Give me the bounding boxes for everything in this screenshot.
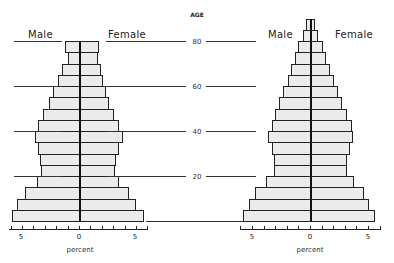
bar-male-15-19 xyxy=(266,176,311,188)
age-label-40: 40 xyxy=(187,128,207,136)
age-line-mid-right-60 xyxy=(206,86,256,87)
bar-female-60-64 xyxy=(79,75,103,87)
x-tick xyxy=(275,226,276,230)
tick-label-right-5-female: 5 xyxy=(362,233,374,241)
x-tick xyxy=(380,226,381,230)
bar-female-65-69 xyxy=(79,64,101,76)
x-tick xyxy=(147,226,148,230)
bar-male-50-54 xyxy=(279,97,311,109)
bar-male-10-14 xyxy=(25,187,80,199)
x-tick xyxy=(33,226,34,230)
bar-male-35-39 xyxy=(268,131,311,143)
x-tick xyxy=(113,226,114,230)
age-label-20: 20 xyxy=(187,173,207,181)
x-tick xyxy=(79,226,80,230)
bar-female-0-4 xyxy=(310,210,375,222)
x-tick xyxy=(333,226,334,230)
bar-male-5-9 xyxy=(17,199,80,211)
bar-male-35-39 xyxy=(35,131,80,143)
age-axis-title: AGE xyxy=(182,11,212,18)
age-line-mid-left-60 xyxy=(106,86,186,87)
age-line-mid-left-80 xyxy=(106,41,186,42)
x-tick xyxy=(22,226,23,230)
x-tick xyxy=(56,226,57,230)
x-tick xyxy=(287,226,288,230)
x-tick xyxy=(90,226,91,230)
age-line-left-20 xyxy=(14,176,62,177)
bar-female-10-14 xyxy=(79,187,129,199)
x-tick xyxy=(298,226,299,230)
bar-female-15-19 xyxy=(310,176,354,188)
tick-label-left-0: 0 xyxy=(73,233,85,241)
bar-male-40-44 xyxy=(272,120,311,132)
x-tick xyxy=(68,226,69,230)
x-tick xyxy=(252,226,253,230)
bar-female-55-59 xyxy=(310,86,338,98)
bar-female-35-39 xyxy=(310,131,353,143)
age-line-mid-left-20 xyxy=(106,176,186,177)
age-line-mid-left-40 xyxy=(106,131,186,132)
tick-label-left-5-female: 5 xyxy=(129,233,141,241)
x-tick xyxy=(368,226,369,230)
x-tick xyxy=(356,226,357,230)
x-tick xyxy=(102,226,103,230)
bar-female-30-34 xyxy=(310,142,350,154)
male-label-right: Male xyxy=(268,29,293,40)
age-line-left-80 xyxy=(14,41,62,42)
bar-female-30-34 xyxy=(79,142,119,154)
bar-male-30-34 xyxy=(38,142,80,154)
bar-female-0-4 xyxy=(79,210,144,222)
bar-male-0-4 xyxy=(243,210,311,222)
bar-female-60-64 xyxy=(310,75,334,87)
age-label-80: 80 xyxy=(187,38,207,46)
bar-female-5-9 xyxy=(310,199,369,211)
center-line xyxy=(310,19,312,223)
bar-male-65-69 xyxy=(62,64,80,76)
bar-female-65-69 xyxy=(310,64,330,76)
x-tick xyxy=(240,226,241,230)
bar-female-45-49 xyxy=(79,109,114,121)
bar-female-20-24 xyxy=(310,165,347,177)
bar-male-25-29 xyxy=(40,154,80,166)
bar-male-50-54 xyxy=(49,97,80,109)
x-tick xyxy=(45,226,46,230)
age-line-left-60 xyxy=(14,86,62,87)
male-label-left: Male xyxy=(28,29,53,40)
bar-female-5-9 xyxy=(79,199,136,211)
bar-male-45-49 xyxy=(43,109,80,121)
age-line-mid-right-40 xyxy=(206,131,256,132)
bar-female-75-79 xyxy=(79,41,99,53)
tick-label-right-0: 0 xyxy=(304,233,316,241)
bar-male-0-4 xyxy=(12,210,80,222)
bar-male-25-29 xyxy=(274,154,311,166)
x-axis-label-right: percent xyxy=(290,246,330,254)
age-line-mid-right-80 xyxy=(206,41,256,42)
tick-label-left-5-male: 5 xyxy=(15,233,27,241)
age-line-left-40 xyxy=(14,131,62,132)
x-tick xyxy=(322,226,323,230)
bar-male-15-19 xyxy=(37,176,80,188)
bar-male-70-74 xyxy=(295,52,311,64)
female-label-right: Female xyxy=(335,29,373,40)
bar-female-70-74 xyxy=(79,52,98,64)
x-tick xyxy=(125,226,126,230)
age-line-mid-right-20 xyxy=(206,176,256,177)
bar-female-40-44 xyxy=(310,120,352,132)
bar-female-35-39 xyxy=(79,131,123,143)
bar-male-5-9 xyxy=(249,199,311,211)
x-tick xyxy=(136,226,137,230)
bar-female-55-59 xyxy=(79,86,106,98)
x-axis-label-left: percent xyxy=(60,246,100,254)
bar-male-75-79 xyxy=(65,41,80,53)
bar-male-45-49 xyxy=(275,109,311,121)
bar-female-25-29 xyxy=(79,154,116,166)
bar-male-20-24 xyxy=(274,165,311,177)
bar-male-30-34 xyxy=(272,142,311,154)
x-tick xyxy=(11,226,12,230)
x-tick xyxy=(310,226,311,230)
bar-male-55-59 xyxy=(53,86,80,98)
x-tick xyxy=(264,226,265,230)
bar-female-25-29 xyxy=(310,154,347,166)
bar-female-50-54 xyxy=(79,97,109,109)
bar-male-10-14 xyxy=(255,187,311,199)
